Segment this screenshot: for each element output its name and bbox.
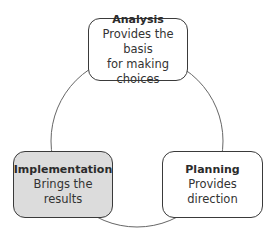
node-title: Analysis [112, 13, 164, 27]
node-title: Implementation [14, 163, 113, 177]
node-title: Planning [185, 163, 239, 177]
node-description-line: Provides direction [163, 177, 262, 207]
node-analysis: Analysis Provides the basis for making c… [88, 18, 188, 81]
node-planning: Planning Provides direction [162, 151, 263, 218]
node-implementation: Implementation Brings the results [13, 151, 113, 218]
node-description-line: for making choices [89, 57, 187, 87]
node-description-line: Provides the basis [89, 27, 187, 57]
node-description-line: Brings the results [14, 177, 112, 207]
